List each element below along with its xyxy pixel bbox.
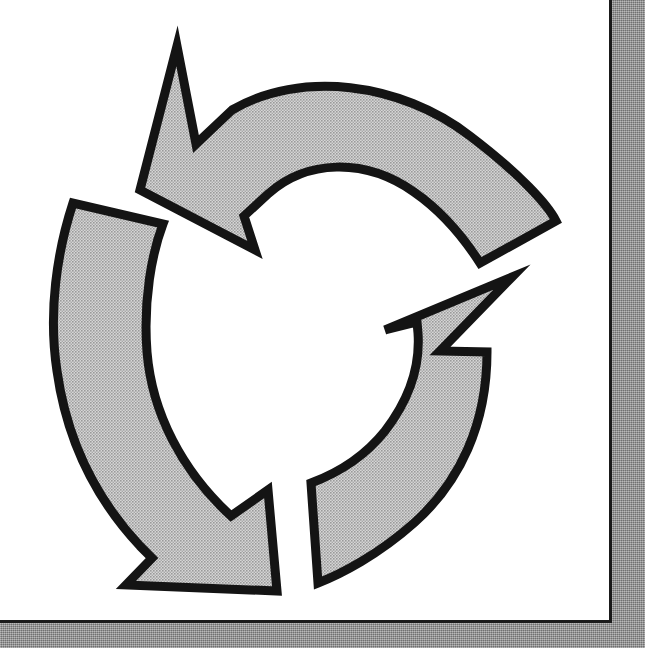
cycle-arrow-top bbox=[140, 46, 556, 263]
scan-shadow-band-right bbox=[612, 0, 645, 648]
paper-sheet bbox=[0, 0, 612, 623]
scanned-page bbox=[0, 0, 645, 648]
cycle-arrow-bottom-left bbox=[53, 203, 277, 591]
three-arrow-cycle-diagram bbox=[0, 0, 612, 623]
cycle-arrow-right bbox=[311, 277, 512, 583]
scan-shadow-band-bottom bbox=[0, 623, 645, 648]
